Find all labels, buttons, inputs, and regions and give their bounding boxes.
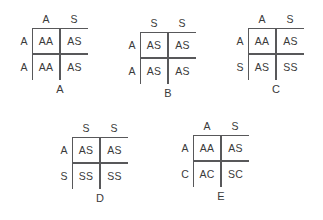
grid-corner-spacer [124,17,140,32]
genotype-cell: AA [193,135,221,161]
column-header-allele: A [32,13,60,28]
punnett-square-a: ASAAAASAAAASA [16,13,88,80]
square-label-a: A [32,84,88,95]
square-label-b: B [140,88,196,99]
genotype-cell: AS [100,137,128,163]
row-header-allele: C [177,161,193,187]
column-header-allele: S [100,122,128,137]
genotype-cell: AS [140,32,168,58]
square-label-e: E [193,191,249,202]
column-header-allele: S [140,17,168,32]
row-header-allele: A [124,58,140,84]
row-header-allele: S [56,163,72,189]
row-header-allele: A [232,28,248,54]
genotype-cell: AS [221,135,249,161]
genotype-cell: AS [248,54,276,80]
column-header-allele: A [248,13,276,28]
column-header-allele: S [60,13,88,28]
grid-corner-spacer [56,122,72,137]
genotype-cell: AA [32,54,60,80]
genotype-cell: AS [140,58,168,84]
punnett-grid: ASAAAASAAAAS [16,13,88,80]
square-label-c: C [248,84,304,95]
row-header-allele: A [16,54,32,80]
genotype-cell: AS [276,28,304,54]
column-header-allele: A [193,120,221,135]
genotype-cell: AA [248,28,276,54]
punnett-square-c: ASAAAASSASSSC [232,13,304,80]
punnett-square-d: SSAASASSSSSSD [56,122,128,189]
genotype-cell: AA [32,28,60,54]
punnett-square-b: SSAASASAASASB [124,17,196,84]
column-header-allele: S [221,120,249,135]
genotype-cell: SS [276,54,304,80]
row-header-allele: S [232,54,248,80]
genotype-cell: SS [72,163,100,189]
row-header-allele: A [177,135,193,161]
punnett-square-e: ASAAAASCACSCE [177,120,249,187]
genotype-cell: AS [168,58,196,84]
punnett-grid: ASAAAASSASSS [232,13,304,80]
row-header-allele: A [124,32,140,58]
grid-corner-spacer [232,13,248,28]
grid-corner-spacer [16,13,32,28]
genotype-cell: AC [193,161,221,187]
genotype-cell: AS [60,28,88,54]
row-header-allele: A [16,28,32,54]
grid-corner-spacer [177,120,193,135]
column-header-allele: S [276,13,304,28]
column-header-allele: S [168,17,196,32]
square-label-d: D [72,193,128,204]
row-header-allele: A [56,137,72,163]
genotype-cell: SC [221,161,249,187]
genotype-cell: AS [168,32,196,58]
genotype-cell: AS [60,54,88,80]
punnett-grid: SSAASASAASAS [124,17,196,84]
genotype-cell: AS [72,137,100,163]
punnett-grid: SSAASASSSSSS [56,122,128,189]
punnett-grid: ASAAAASCACSC [177,120,249,187]
genotype-cell: SS [100,163,128,189]
column-header-allele: S [72,122,100,137]
